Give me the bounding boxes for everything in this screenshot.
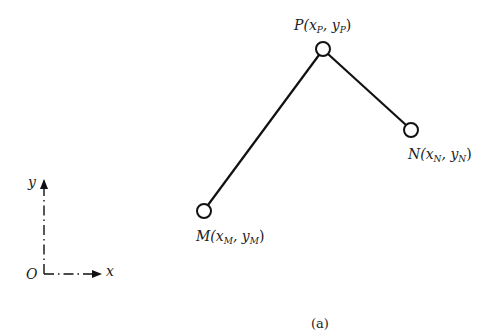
- origin-label: O: [26, 266, 38, 282]
- link-diagram: P(xP, yP) N(xN, yN) M(xM, yM) y x O (a): [0, 0, 497, 334]
- x-axis-label: x: [106, 263, 114, 279]
- label-n: N(xN, yN): [407, 146, 472, 164]
- figure-caption: (a): [311, 316, 329, 331]
- y-axis-label: y: [27, 174, 37, 190]
- label-m: M(xM, yM): [195, 228, 264, 246]
- coordinate-axes: y x O: [26, 174, 114, 282]
- edge-m-p: [208, 55, 319, 205]
- node-m: [197, 204, 211, 218]
- edge-p-n: [328, 54, 406, 125]
- node-p: [316, 42, 330, 56]
- label-p: P(xP, yP): [293, 17, 351, 35]
- node-n: [404, 123, 418, 137]
